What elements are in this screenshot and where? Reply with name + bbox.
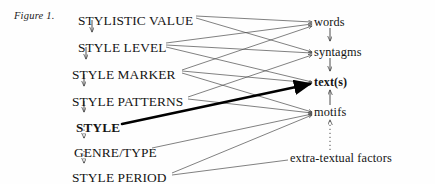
node-style-level: STYLE LEVEL [78,41,167,54]
node-words: words [314,16,345,28]
node-stylistic-value: STYLISTIC VALUE [78,14,193,27]
node-syntagms: syntagms [314,46,362,58]
node-style-patterns: STYLE PATTERNS [72,95,183,108]
figure-diagram: Figure 1. STYLISTIC VALUE STYLE LEVEL ST… [0,0,435,184]
node-extra-textual-factors: extra-textual factors [290,152,392,164]
node-genre-type: GENRE/TYPE [74,146,157,159]
node-style-marker: STYLE MARKER [72,68,176,81]
node-style-period: STYLE PERIOD [72,171,167,184]
figure-caption: Figure 1. [14,10,55,21]
node-style: STYLE [76,121,120,134]
node-motifs: motifs [314,106,346,118]
node-texts: text(s) [314,76,347,88]
